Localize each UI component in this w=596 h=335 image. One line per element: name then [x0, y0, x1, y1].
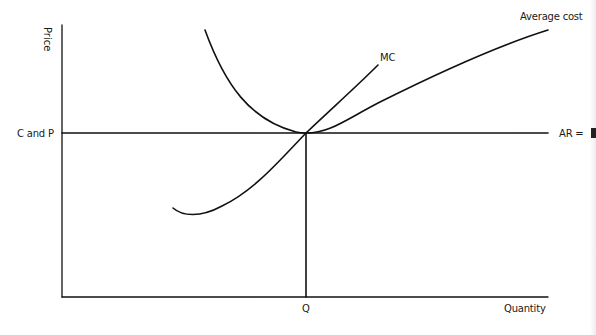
quantity-level-label: Q — [302, 303, 310, 314]
average-cost-curve — [205, 30, 548, 133]
ar-label: AR = — [559, 128, 584, 139]
price-level-label: C and P — [17, 128, 54, 139]
cropped-mark — [591, 128, 596, 138]
right-edge-shadow — [590, 0, 596, 335]
mc-label: MC — [380, 52, 395, 63]
y-axis-label: Price — [42, 27, 53, 51]
x-axis-label: Quantity — [504, 303, 546, 314]
average-cost-label: Average cost — [520, 11, 583, 22]
cost-curves-chart — [0, 0, 596, 335]
mc-curve — [173, 65, 378, 215]
